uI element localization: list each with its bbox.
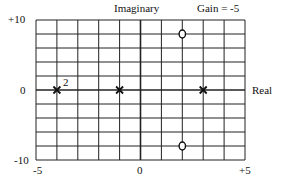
imaginary-axis-label: Imaginary [114,3,159,14]
real-axis-label: Real [252,85,272,96]
x-tick-right: +5 [239,165,251,176]
x-tick-zero: 0 [137,165,143,176]
x-tick-left: -5 [33,165,42,176]
y-tick-top: +10 [8,14,25,25]
y-tick-zero: 0 [20,85,26,96]
pole-zero-plot [0,0,281,183]
zero-marker-icon [179,30,185,38]
zero-marker-icon [179,142,185,150]
multiplicity-annotation: 2 [63,77,69,88]
gain-label: Gain = -5 [197,3,239,14]
y-tick-bottom: -10 [14,155,29,166]
